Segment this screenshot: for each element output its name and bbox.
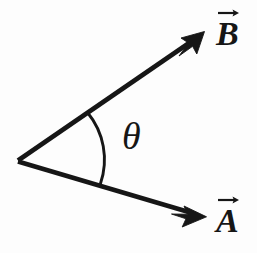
angle-arc (88, 113, 105, 184)
vector-b-label: B (216, 7, 240, 51)
angle-theta-label: θ (122, 117, 141, 155)
vector-a-overarrow-icon (216, 194, 240, 205)
vector-b-arrowhead (179, 32, 205, 57)
vector-a-letter: A (216, 204, 240, 238)
vector-a-label: A (216, 194, 240, 238)
vector-b-letter: B (216, 17, 240, 51)
vector-b-shaft (18, 41, 192, 161)
vector-angle-figure: θ B A (0, 0, 257, 253)
vector-b-overarrow-icon (216, 7, 240, 18)
